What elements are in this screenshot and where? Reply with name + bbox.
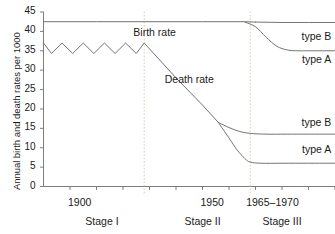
y-tick-label: 25 <box>3 83 36 94</box>
y-tick-label: 45 <box>3 5 36 16</box>
y-tick-label: 10 <box>3 141 36 152</box>
y-tick-label: 15 <box>3 121 36 132</box>
y-tick-label: 0 <box>3 180 36 191</box>
stage-label: Stage III <box>263 215 302 227</box>
label-birth-rate: Birth rate <box>133 26 176 38</box>
y-tick-label: 35 <box>3 44 36 55</box>
x-tick-label: 1900 <box>68 196 91 208</box>
x-tick-label: 1965–1970 <box>246 196 299 208</box>
y-tick-label: 5 <box>3 160 36 171</box>
demographic-transition-chart: Annual birth and death rates per 1000 05… <box>0 0 335 234</box>
y-tick-label: 20 <box>3 102 36 113</box>
x-tick-label: 1950 <box>201 196 224 208</box>
label-birth-rate-type-b: type B <box>302 30 332 42</box>
axis-spine <box>44 12 335 187</box>
stage-label: Stage II <box>185 215 221 227</box>
label-death-rate-type-b: type B <box>302 116 332 128</box>
y-tick-label: 30 <box>3 63 36 74</box>
stage-label: Stage I <box>85 215 118 227</box>
label-birth-rate-type-a: type A <box>302 53 331 65</box>
label-death-rate-type-a: type A <box>302 143 331 155</box>
label-death-rate: Death rate <box>165 73 214 85</box>
y-tick-label: 40 <box>3 24 36 35</box>
